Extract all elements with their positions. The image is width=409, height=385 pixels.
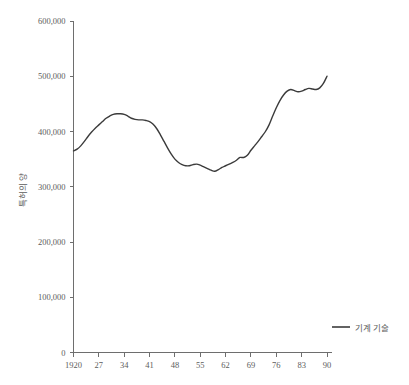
x-tick-label-1941: 41 — [145, 360, 154, 370]
x-tick-label-1962: 62 — [221, 360, 230, 370]
y-tick-label-0: 0 — [61, 348, 65, 358]
y-tick-label-600000: 600,000 — [38, 16, 66, 26]
y-tick-label-200000: 200,000 — [38, 237, 66, 247]
y-tick-label-300000: 300,000 — [38, 182, 66, 192]
x-tick-label-1920: 1920 — [65, 360, 82, 370]
x-tick-label-1948: 48 — [171, 360, 180, 370]
y-tick-label-400000: 400,000 — [38, 127, 66, 137]
x-tick-label-1927: 27 — [95, 360, 104, 370]
x-tick-label-1934: 34 — [120, 360, 129, 370]
x-tick-label-1983: 83 — [297, 360, 306, 370]
x-tick-label-1955: 55 — [196, 360, 205, 370]
chart-container: 0100,000200,000300,000400,000500,000600,… — [0, 0, 409, 385]
line-chart: 0100,000200,000300,000400,000500,000600,… — [0, 0, 409, 385]
x-tick-label-1990: 90 — [323, 360, 332, 370]
y-tick-label-100000: 100,000 — [38, 292, 66, 302]
y-tick-label-500000: 500,000 — [38, 71, 66, 81]
x-tick-label-1976: 76 — [272, 360, 281, 370]
x-tick-label-1969: 69 — [247, 360, 256, 370]
y-axis-title: 특허의 양 — [18, 173, 28, 207]
legend-label-0: 기계 기술 — [355, 323, 389, 333]
